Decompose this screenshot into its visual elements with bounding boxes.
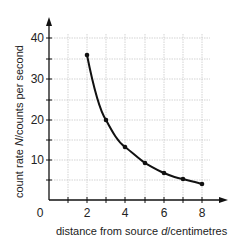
- y-tick-label: 40: [31, 31, 45, 45]
- decay-chart: 40 30 20 10 0 2 4 6 8 distance from sour…: [0, 0, 246, 245]
- y-axis-label: count rate N/counts per second: [13, 45, 25, 198]
- x-tick-label: 2: [84, 206, 91, 220]
- grid: [49, 34, 210, 200]
- axes: [49, 22, 222, 200]
- y-axis-arrow-icon: [46, 17, 52, 26]
- x-tick-label: 8: [199, 206, 206, 220]
- x-axis-arrow-icon: [219, 197, 228, 203]
- y-tick-labels: 40 30 20 10: [31, 31, 45, 167]
- x-axis-label: distance from source d/centimetres: [56, 225, 228, 237]
- x-tick-label: 6: [161, 206, 168, 220]
- x-tick-label: 4: [122, 206, 129, 220]
- x-tick-labels: 0 2 4 6 8: [37, 206, 206, 220]
- y-tick-label: 10: [31, 153, 45, 167]
- y-tick-label: 30: [31, 72, 45, 86]
- origin-label: 0: [37, 206, 44, 220]
- y-tick-label: 20: [31, 113, 45, 127]
- data-points: [85, 53, 205, 187]
